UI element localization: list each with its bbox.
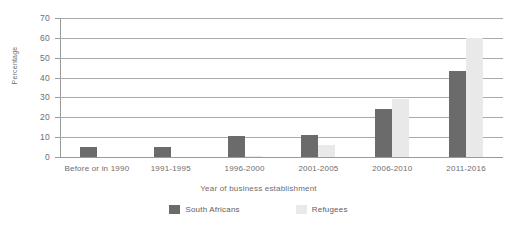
x-axis-tick-label: 1996-2000 [225, 164, 265, 173]
y-axis-tick-label: 60 [26, 33, 50, 43]
bar-group [375, 18, 409, 157]
bar-south-africans [301, 135, 318, 157]
legend-label: Refugees [312, 205, 348, 214]
bar-refugees [245, 156, 262, 157]
y-axis-tick-label: 0 [26, 152, 50, 162]
legend-item: Refugees [296, 205, 348, 214]
gridline [60, 97, 503, 98]
gridline [60, 157, 503, 158]
bar-south-africans [228, 136, 245, 157]
bar-group [301, 18, 335, 157]
legend-item: South Africans [169, 205, 239, 214]
gridline [60, 78, 503, 79]
legend-swatch-icon [296, 205, 307, 214]
y-axis-tick-label: 10 [26, 132, 50, 142]
bar-group [154, 18, 188, 157]
y-axis-tick-label: 50 [26, 53, 50, 63]
gridline [60, 38, 503, 39]
bar-refugees [318, 145, 335, 157]
plot-area [60, 18, 503, 157]
bar-south-africans [154, 147, 171, 157]
bar-refugees [466, 38, 483, 157]
chart-legend: South AfricansRefugees [0, 205, 517, 214]
legend-label: South Africans [185, 205, 239, 214]
bar-chart: Percentage 010203040506070 Before or in … [0, 0, 517, 229]
bar-south-africans [375, 109, 392, 157]
y-axis-tick-label: 20 [26, 112, 50, 122]
y-axis-tick-label: 70 [26, 13, 50, 23]
bar-south-africans [80, 147, 97, 157]
y-axis-title: Percentage [11, 26, 18, 106]
y-axis-tick-label: 40 [26, 73, 50, 83]
legend-swatch-icon [169, 205, 180, 214]
gridline [60, 137, 503, 138]
x-axis-title: Year of business establishment [0, 184, 517, 193]
bar-group [449, 18, 483, 157]
y-axis-tick-label: 30 [26, 92, 50, 102]
x-axis-tick-label: 2011-2016 [446, 164, 485, 173]
bar-group [228, 18, 262, 157]
x-axis-tick-label: Before or in 1990 [65, 164, 130, 173]
bar-group [80, 18, 114, 157]
gridline [60, 58, 503, 59]
x-axis-tick-label: 2006-2010 [372, 164, 412, 173]
gridline [60, 18, 503, 19]
gridline [60, 117, 503, 118]
x-axis-tick-label: 2001-2005 [298, 164, 338, 173]
bar-south-africans [449, 71, 466, 157]
bar-refugees [392, 99, 409, 157]
x-axis-tick-label: 1991-1995 [151, 164, 191, 173]
